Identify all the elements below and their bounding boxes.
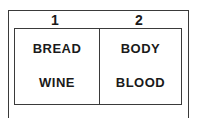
column-1-item-2: WINE: [15, 75, 99, 90]
column-1-item-1: BREAD: [15, 41, 99, 56]
matching-table: BREAD WINE BODY BLOOD: [14, 28, 182, 105]
column-number-2: 2: [129, 12, 149, 28]
column-2: BODY BLOOD: [100, 29, 181, 104]
column-number-1: 1: [45, 12, 65, 28]
column-1: BREAD WINE: [15, 29, 100, 104]
column-2-item-2: BLOOD: [100, 75, 181, 90]
column-2-item-1: BODY: [100, 41, 181, 56]
